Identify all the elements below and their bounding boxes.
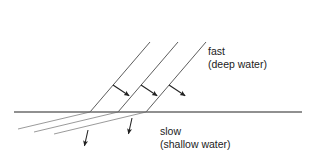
refracted-ray-group xyxy=(84,118,132,146)
wave-refraction-diagram: fast (deep water) slow (shallow water) xyxy=(0,0,315,162)
refracted-ray-arrow-1 xyxy=(128,118,132,134)
slow-label-line1: slow xyxy=(160,125,181,137)
incident-ray-arrow-3 xyxy=(169,85,185,96)
refracted-wavefront-group xyxy=(18,112,146,134)
fast-label: fast (deep water) xyxy=(208,45,267,70)
incident-wavefront-2 xyxy=(118,42,178,112)
incident-wavefront-3 xyxy=(146,42,206,112)
slow-label: slow (shallow water) xyxy=(160,125,231,150)
wave-refraction-canvas: fast (deep water) slow (shallow water) xyxy=(0,0,315,162)
fast-label-line2: (deep water) xyxy=(208,58,267,70)
refracted-ray-arrow-2 xyxy=(84,130,88,146)
refracted-wavefront-1 xyxy=(18,112,90,129)
incident-ray-arrow-2 xyxy=(141,85,157,96)
incident-wavefront-group xyxy=(90,42,206,112)
slow-label-line2: (shallow water) xyxy=(160,138,231,150)
incident-ray-arrow-1 xyxy=(113,85,129,96)
refracted-wavefront-3 xyxy=(54,112,146,134)
incident-ray-group xyxy=(113,85,185,96)
fast-label-line1: fast xyxy=(208,45,225,57)
incident-wavefront-1 xyxy=(90,42,150,112)
